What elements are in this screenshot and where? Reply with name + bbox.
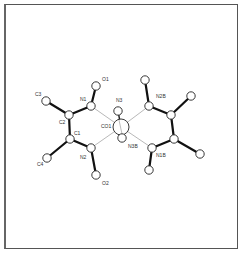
atom-c1b: [170, 135, 178, 143]
atom-co1: [113, 119, 129, 135]
atom-n1: [87, 102, 95, 110]
atom-o1b: [145, 166, 153, 174]
atom-n3: [114, 107, 122, 115]
atoms-layer: [42, 76, 204, 179]
atom-o2b: [141, 76, 149, 84]
atom-label-c4: C4: [37, 161, 44, 167]
molecule-diagram: C3N1O1C2C1C4N2O2CO1N3N3BN2BN1B: [0, 0, 251, 258]
atom-n2: [87, 144, 95, 152]
atom-o2: [92, 171, 100, 179]
atom-label-n3b: N3B: [128, 143, 138, 149]
atom-c4: [43, 154, 51, 162]
atom-c2b: [167, 111, 175, 119]
atom-n1b: [148, 144, 156, 152]
atom-label-n1b: N1B: [156, 152, 166, 158]
atom-label-c2: C2: [59, 119, 66, 125]
atom-n2b: [145, 102, 153, 110]
atom-n3b: [118, 134, 126, 142]
atom-label-n2: N2: [80, 154, 87, 160]
atom-label-o1: O1: [102, 76, 109, 82]
atom-c4b: [187, 92, 195, 100]
atom-o1: [92, 82, 100, 90]
atom-c1: [66, 135, 74, 143]
atom-c2: [65, 111, 73, 119]
atom-label-o2: O2: [102, 180, 109, 186]
atom-label-c3: C3: [35, 91, 42, 97]
atom-c3: [42, 97, 50, 105]
atom-label-c1: C1: [74, 130, 81, 136]
atom-label-n2b: N2B: [156, 93, 166, 99]
atom-label-n1: N1: [80, 96, 87, 102]
atom-label-n3: N3: [116, 97, 123, 103]
atom-label-co1: CO1: [101, 123, 112, 129]
atom-c3b: [196, 150, 204, 158]
